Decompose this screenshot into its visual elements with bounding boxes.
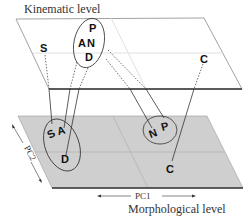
pc1-arrowhead-left	[97, 195, 101, 198]
pc1-axis: PC1	[97, 191, 196, 201]
pc2-arrow-upper	[13, 126, 23, 143]
kinematic-point-P: P	[89, 22, 96, 34]
kinematic-point-N: N	[87, 37, 95, 49]
morphological-level-title: Morphological level	[128, 202, 226, 216]
kinematic-point-A: A	[78, 37, 86, 49]
kinematic-level-title: Kinematic level	[24, 2, 101, 16]
pc2-arrowhead-upper	[12, 124, 15, 129]
kinematic-point-C: C	[200, 53, 208, 65]
kinematic-plane	[16, 18, 242, 89]
connector-P	[146, 89, 164, 118]
morphological-point-C: C	[166, 163, 174, 175]
pc1-arrowhead-right	[192, 195, 196, 198]
morphological-point-D: D	[61, 153, 69, 165]
kinematic-point-D: D	[85, 51, 93, 63]
kinematic-point-S: S	[40, 42, 47, 54]
pc2-arrowhead-lower	[39, 179, 43, 183]
pc1-label: PC1	[135, 191, 151, 201]
pc2-arrow-lower	[31, 162, 41, 181]
two-level-diagram: S P A N D C S A D N P C Kinematic level …	[0, 0, 249, 219]
